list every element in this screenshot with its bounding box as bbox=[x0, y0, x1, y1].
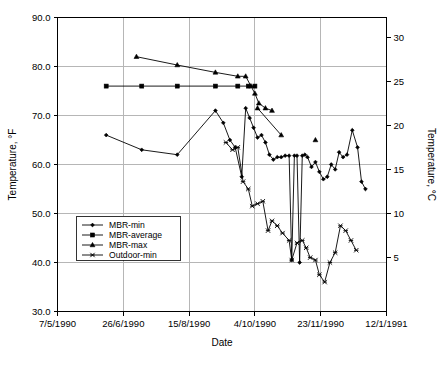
y-tick-label-left: 90.0 bbox=[32, 12, 51, 23]
chart-legend: MBR-minMBR-averageMBR-maxOutdoor-min bbox=[76, 216, 180, 260]
y-tick-label-right: 10 bbox=[394, 208, 405, 219]
x-tick-label: 7/5/1990 bbox=[39, 318, 76, 329]
x-tick-label: 26/6/1990 bbox=[102, 318, 144, 329]
legend-swatch-marker bbox=[91, 233, 95, 237]
y-tick-label-right: 15 bbox=[394, 164, 405, 175]
data-point-square bbox=[213, 84, 217, 88]
data-point-square bbox=[104, 84, 108, 88]
x-tick-label: 15/8/1990 bbox=[168, 318, 210, 329]
temperature-time-series-chart: 30.040.050.060.070.080.090.0510152025307… bbox=[0, 0, 444, 365]
legend-label-outdoor-min: Outdoor-min bbox=[109, 250, 157, 260]
y-tick-label-right: 25 bbox=[394, 76, 405, 87]
data-point-square bbox=[175, 84, 179, 88]
x-tick-label: 23/11/1990 bbox=[297, 318, 344, 329]
data-point-square bbox=[236, 84, 240, 88]
y-tick-label-right: 5 bbox=[394, 252, 399, 263]
x-axis-title: Date bbox=[211, 337, 233, 348]
x-tick-label: 4/10/1990 bbox=[234, 318, 276, 329]
y-tick-label-left: 70.0 bbox=[32, 110, 51, 121]
legend-label-mbr-max: MBR-max bbox=[109, 240, 148, 250]
y-axis-title-right: Temperature, °C bbox=[426, 128, 437, 201]
data-point-square bbox=[140, 84, 144, 88]
y-tick-label-left: 40.0 bbox=[32, 257, 51, 268]
y-tick-label-right: 20 bbox=[394, 120, 405, 131]
chart-canvas: 30.040.050.060.070.080.090.0510152025307… bbox=[0, 0, 444, 365]
y-tick-label-left: 50.0 bbox=[32, 208, 51, 219]
y-tick-label-right: 30 bbox=[394, 32, 405, 43]
x-tick-label: 12/1/1991 bbox=[365, 318, 407, 329]
legend-label-mbr-min: MBR-min bbox=[109, 220, 145, 230]
y-tick-label-left: 60.0 bbox=[32, 159, 51, 170]
legend-label-mbr-average: MBR-average bbox=[109, 230, 162, 240]
y-tick-label-left: 30.0 bbox=[32, 306, 51, 317]
y-tick-label-left: 80.0 bbox=[32, 61, 51, 72]
y-axis-title-left: Temperature, °F bbox=[7, 129, 18, 201]
chart-background bbox=[0, 0, 444, 365]
